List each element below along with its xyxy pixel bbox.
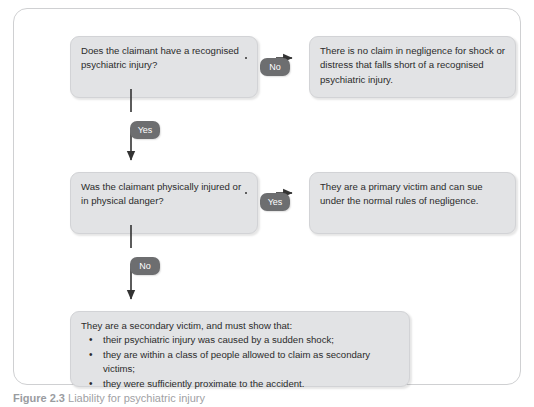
figure-caption: Figure 2.3 Liability for psychiatric inj…	[13, 391, 493, 405]
list-item: they are within a class of people allowe…	[89, 348, 399, 377]
node-final-outcome: They are a secondary victim, and must sh…	[70, 311, 410, 387]
node-question-1: Does the claimant have a recognised psyc…	[70, 36, 258, 98]
figure-caption-number: 2.3	[50, 392, 65, 404]
node-outcome-1: There is no claim in negligence for shoc…	[309, 36, 516, 98]
node-question-2: Was the claimant physically injured or i…	[70, 172, 258, 234]
edge-label-no-question2: No	[130, 257, 160, 275]
edge-label-yes-question1: Yes	[130, 121, 160, 139]
node-final-lead: They are a secondary victim, and must sh…	[81, 319, 399, 333]
node-outcome-2: They are a primary victim and can sue un…	[309, 172, 516, 234]
figure-caption-label: Figure	[13, 392, 47, 404]
node-final-bullet-list: their psychiatric injury was caused by a…	[81, 333, 399, 391]
figure-frame: Does the claimant have a recognised psyc…	[13, 8, 521, 385]
edge-label-no-question1: No	[260, 58, 290, 76]
list-item: their psychiatric injury was caused by a…	[89, 333, 399, 347]
node-question-2-text: Was the claimant physically injured or i…	[81, 180, 248, 209]
figure-caption-text: Liability for psychiatric injury	[68, 392, 205, 404]
node-outcome-1-text: There is no claim in negligence for shoc…	[320, 44, 506, 87]
list-item: they were sufficiently proximate to the …	[89, 377, 399, 391]
node-outcome-2-text: They are a primary victim and can sue un…	[320, 180, 506, 209]
node-question-1-text: Does the claimant have a recognised psyc…	[81, 44, 248, 73]
figure-screenshot: Does the claimant have a recognised psyc…	[0, 0, 534, 407]
edge-label-yes-question2: Yes	[260, 193, 290, 211]
